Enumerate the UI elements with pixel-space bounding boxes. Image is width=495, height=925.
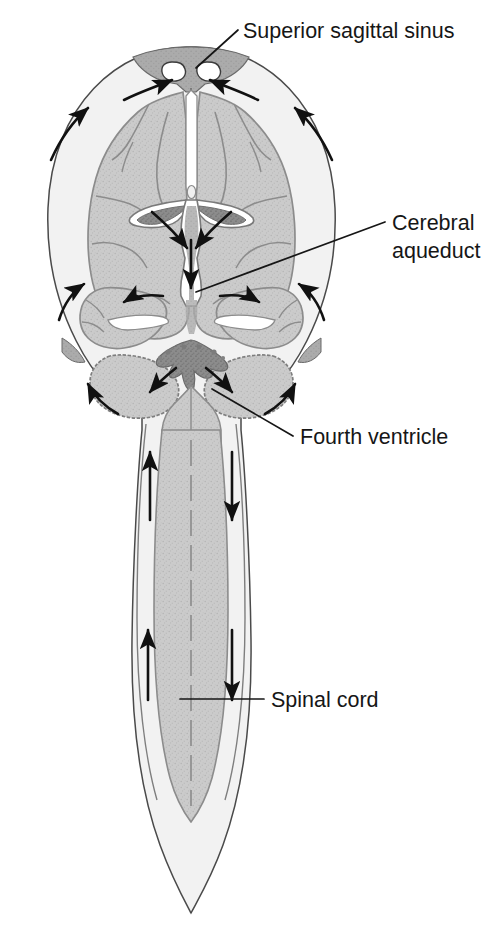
brain-csf-diagram: Superior sagittal sinus Cerebral aqueduc…	[0, 0, 495, 925]
interhemispheric-fissure	[186, 90, 197, 199]
label-superior-sagittal-sinus: Superior sagittal sinus	[243, 19, 455, 43]
label-fourth-ventricle: Fourth ventricle	[300, 425, 448, 449]
label-cerebral-aqueduct-line2: aqueduct	[392, 239, 480, 263]
label-spinal-cord: Spinal cord	[271, 688, 379, 712]
label-cerebral-aqueduct-line1: Cerebral	[392, 211, 474, 235]
anatomical-figure: Superior sagittal sinus Cerebral aqueduc…	[0, 0, 495, 925]
